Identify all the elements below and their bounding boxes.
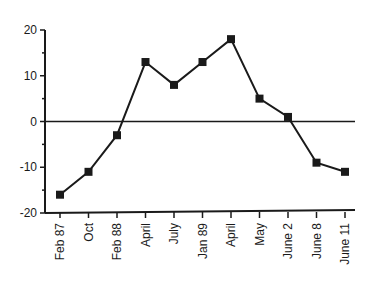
data-point-marker xyxy=(113,131,121,139)
data-point-marker xyxy=(227,35,235,43)
y-tick-label: 20 xyxy=(24,23,38,37)
x-tick-label: May xyxy=(253,223,267,246)
x-tick-label: Oct xyxy=(82,222,96,241)
data-point-marker xyxy=(284,113,292,121)
data-point-marker xyxy=(256,95,264,103)
data-point-marker xyxy=(341,168,349,176)
x-tick-label: April xyxy=(224,223,238,247)
x-tick-label: June 8 xyxy=(310,223,324,259)
data-point-marker xyxy=(85,168,93,176)
data-series xyxy=(56,35,349,199)
y-tick-label: 0 xyxy=(30,115,37,129)
data-point-marker xyxy=(56,191,64,199)
data-point-marker xyxy=(142,58,150,66)
x-tick-label: Jan 89 xyxy=(196,223,210,259)
x-tick-label: June 11 xyxy=(338,223,352,265)
y-tick-label: -20 xyxy=(20,206,38,220)
y-tick-label: 10 xyxy=(24,69,38,83)
x-tick-label: April xyxy=(139,223,153,247)
data-point-marker xyxy=(313,159,321,167)
x-axis: Feb 87OctFeb 88AprilJulyJan 89AprilMayJu… xyxy=(45,210,355,265)
y-tick-label: -10 xyxy=(20,160,38,174)
x-tick-label: June 2 xyxy=(281,223,295,259)
data-point-marker xyxy=(170,81,178,89)
x-tick-label: Feb 88 xyxy=(110,223,124,261)
line-chart: -20-1001020 Feb 87OctFeb 88AprilJulyJan … xyxy=(0,0,375,290)
data-point-marker xyxy=(199,58,207,66)
x-tick-label: Feb 87 xyxy=(53,223,67,261)
y-axis: -20-1001020 xyxy=(20,23,45,220)
x-tick-label: July xyxy=(167,223,181,244)
